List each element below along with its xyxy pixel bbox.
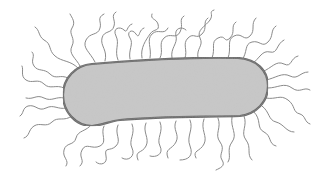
bacterium-svg [0,0,326,185]
bacterium-illustration: rod-shaped bacterium (bacillus) with per… [0,0,326,185]
